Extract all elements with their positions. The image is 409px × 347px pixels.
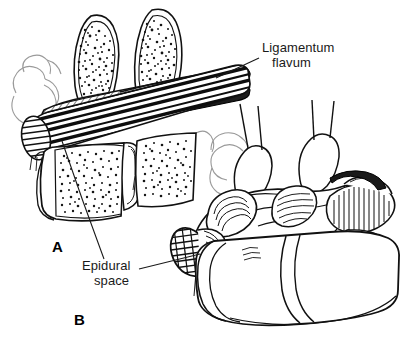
anatomy-figure: Ligamentum flavum Epidural space A B: [0, 0, 409, 347]
label-ligamentum-flavum: Ligamentum flavum: [262, 40, 335, 70]
panel-letter-a: A: [52, 238, 63, 255]
label-ligamentum-flavum-line1: Ligamentum: [262, 40, 335, 55]
label-ligamentum-flavum-line2: flavum: [262, 55, 335, 70]
label-epidural-space: Epidural space: [82, 258, 131, 288]
panel-b-vertebral-bodies: [196, 231, 399, 325]
anatomy-illustration: [0, 0, 409, 347]
label-epidural-space-line1: Epidural: [82, 258, 131, 273]
vertebral-body-right: [136, 133, 196, 207]
panel-letter-b: B: [74, 311, 85, 328]
label-epidural-space-line2: space: [82, 273, 131, 288]
vertebral-body-left: [40, 143, 124, 221]
